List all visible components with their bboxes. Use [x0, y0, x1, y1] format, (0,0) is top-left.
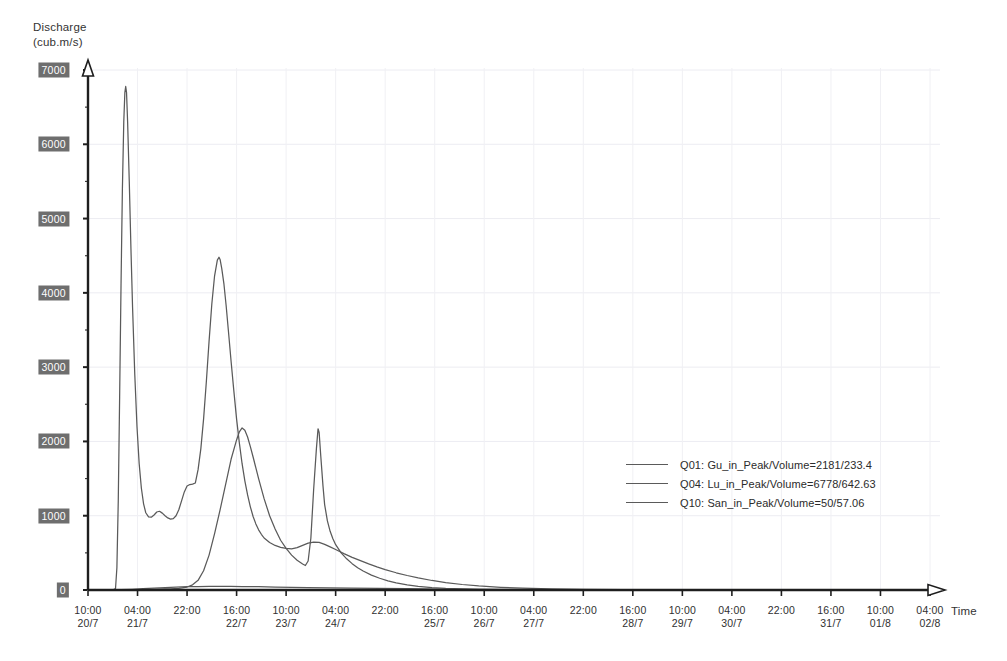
legend-item[interactable]: Q01: Gu_in_Peak/Volume=2181/233.4: [626, 455, 936, 474]
x-axis-tick-date: 21/7: [124, 617, 151, 630]
x-axis-tick-time: 22:00: [768, 604, 795, 617]
x-axis-tick-date: 02/8: [916, 617, 943, 630]
x-axis-tick-label: 04:0024/7: [322, 604, 349, 630]
x-axis-tick-date: 23/7: [272, 617, 299, 630]
y-axis-tick-label: 6000: [38, 137, 69, 152]
y-axis-title-line2: (cub.m/s): [33, 36, 83, 48]
x-axis-tick-time: 22:00: [570, 604, 597, 617]
x-axis-tick-label: 22:00: [570, 604, 597, 617]
x-axis-tick-time: 16:00: [421, 604, 448, 617]
y-axis-tick-label: 3000: [38, 360, 69, 375]
x-axis-arrowhead: [928, 585, 945, 596]
x-axis-tick-label: 04:0021/7: [124, 604, 151, 630]
x-axis-tick-date: 31/7: [817, 617, 844, 630]
x-axis-tick-date: 27/7: [520, 617, 547, 630]
x-axis-tick-date: 30/7: [718, 617, 745, 630]
x-axis-tick-time: 04:00: [322, 604, 349, 617]
x-axis-tick-label: 10:0020/7: [74, 604, 101, 630]
x-axis-title: Time: [951, 604, 977, 619]
x-axis-tick-time: 22:00: [173, 604, 200, 617]
x-axis-tick-label: 22:00: [173, 604, 200, 617]
x-axis-tick-label: 10:0023/7: [272, 604, 299, 630]
x-axis-tick-label: 10:0026/7: [471, 604, 498, 630]
x-axis-tick-time: 16:00: [223, 604, 250, 617]
x-axis-tick-time: 04:00: [916, 604, 943, 617]
y-axis-title-line1: Discharge: [33, 21, 87, 33]
legend-item-label: Q01: Gu_in_Peak/Volume=2181/233.4: [680, 459, 872, 471]
x-axis-tick-date: 24/7: [322, 617, 349, 630]
x-axis-tick-time: 10:00: [867, 604, 894, 617]
x-axis-tick-label: 04:0002/8: [916, 604, 943, 630]
x-axis-tick-label: 16:0025/7: [421, 604, 448, 630]
legend: Q01: Gu_in_Peak/Volume=2181/233.4Q04: Lu…: [626, 455, 936, 512]
x-axis-tick-date: 28/7: [619, 617, 646, 630]
y-axis-tick-label: 1000: [38, 508, 69, 523]
x-axis-tick-time: 10:00: [669, 604, 696, 617]
x-axis-tick-label: 04:0027/7: [520, 604, 547, 630]
x-axis-tick-label: 16:0022/7: [223, 604, 250, 630]
y-axis-tick-label: 2000: [38, 434, 69, 449]
x-axis-tick-label: 16:0031/7: [817, 604, 844, 630]
legend-line-swatch: [626, 464, 668, 465]
x-axis-tick-time: 04:00: [124, 604, 151, 617]
axis-lines: [83, 60, 946, 596]
x-axis-tick-time: 04:00: [718, 604, 745, 617]
legend-item-label: Q10: San_in_Peak/Volume=50/57.06: [680, 497, 865, 509]
legend-item-label: Q04: Lu_in_Peak/Volume=6778/642.63: [680, 478, 876, 490]
x-axis-tick-label: 04:0030/7: [718, 604, 745, 630]
y-axis-tick-label: 4000: [38, 285, 69, 300]
plot-area: [0, 0, 1007, 661]
legend-line-swatch: [626, 502, 668, 503]
x-axis-tick-time: 10:00: [74, 604, 101, 617]
x-axis-tick-time: 10:00: [272, 604, 299, 617]
series-line-q04: [88, 86, 930, 590]
x-axis-tick-date: 20/7: [74, 617, 101, 630]
legend-item[interactable]: Q10: San_in_Peak/Volume=50/57.06: [626, 493, 936, 512]
y-axis-arrowhead: [83, 60, 94, 76]
x-axis-tick-time: 04:00: [520, 604, 547, 617]
x-axis-tick-date: 25/7: [421, 617, 448, 630]
y-axis-tick-label: 7000: [38, 63, 69, 78]
x-axis-tick-time: 22:00: [372, 604, 399, 617]
x-axis-tick-time: 16:00: [619, 604, 646, 617]
x-axis-tick-label: 10:0029/7: [669, 604, 696, 630]
y-axis-tick-label: 0: [57, 583, 69, 598]
legend-item[interactable]: Q04: Lu_in_Peak/Volume=6778/642.63: [626, 474, 936, 493]
x-axis-tick-time: 16:00: [817, 604, 844, 617]
legend-line-swatch: [626, 483, 668, 484]
x-axis-tick-label: 16:0028/7: [619, 604, 646, 630]
discharge-chart: Discharge(cub.m/s) Time 0100020003000400…: [0, 0, 1007, 661]
x-axis-tick-date: 26/7: [471, 617, 498, 630]
x-axis-tick-time: 10:00: [471, 604, 498, 617]
x-axis-tick-date: 22/7: [223, 617, 250, 630]
x-axis-tick-date: 01/8: [867, 617, 894, 630]
x-axis-tick-label: 10:0001/8: [867, 604, 894, 630]
x-axis-tick-date: 29/7: [669, 617, 696, 630]
x-axis-tick-label: 22:00: [768, 604, 795, 617]
y-axis-tick-label: 5000: [38, 211, 69, 226]
x-axis-tick-label: 22:00: [372, 604, 399, 617]
y-axis-title: Discharge(cub.m/s): [33, 20, 87, 50]
series-lines: [88, 86, 930, 590]
